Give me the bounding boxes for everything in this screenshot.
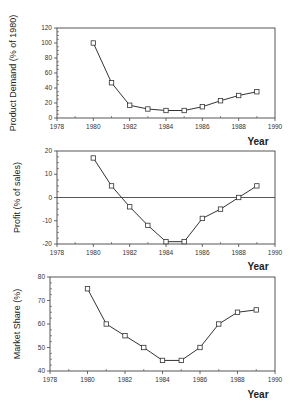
data-point-marker [218, 99, 222, 103]
y-tick-label: 10 [45, 170, 53, 177]
data-point-marker [85, 287, 89, 291]
data-line [93, 43, 257, 111]
y-tick-label: 0 [48, 114, 52, 121]
data-point-marker [104, 322, 108, 326]
y-tick-label: 0 [48, 194, 52, 201]
data-point-marker [160, 358, 164, 362]
data-point-marker [142, 345, 146, 349]
data-point-marker [164, 239, 168, 243]
x-tick-label: 1982 [122, 249, 137, 256]
y-tick-label: 100 [41, 39, 52, 46]
x-tick-label: 1978 [50, 123, 65, 130]
x-tick-label: 1988 [231, 249, 246, 256]
x-axis-title: Year [247, 136, 268, 147]
x-tick-label: 1978 [43, 376, 58, 383]
data-point-marker [200, 105, 204, 109]
data-point-marker [182, 239, 186, 243]
data-point-marker [255, 90, 259, 94]
y-tick-label: 80 [45, 54, 53, 61]
data-point-marker [198, 345, 202, 349]
x-tick-label: 1982 [122, 123, 137, 130]
data-point-marker [123, 334, 127, 338]
y-tick-label: 60 [38, 320, 46, 327]
y-tick-label: 40 [38, 367, 46, 374]
data-point-marker [146, 107, 150, 111]
x-tick-label: 1984 [159, 249, 174, 256]
y-axis-title: Profit (% of sales) [12, 162, 22, 233]
x-tick-label: 1990 [268, 123, 283, 130]
data-point-marker [218, 207, 222, 211]
data-point-marker [127, 205, 131, 209]
data-point-marker [235, 310, 239, 314]
data-point-marker [109, 184, 113, 188]
y-tick-label: 80 [38, 273, 46, 280]
y-tick-label: -20 [43, 240, 53, 247]
profit-chart: -20-10010201978198019821984198619881990P… [12, 147, 283, 272]
data-point-marker [254, 308, 258, 312]
y-tick-label: 20 [45, 147, 53, 154]
y-tick-label: 60 [45, 69, 53, 76]
chart-figure: 0204060801001201978198019821984198619881… [0, 0, 297, 419]
plot-frame [57, 28, 275, 118]
y-tick-label: 70 [38, 297, 46, 304]
market-share-chart: 40506070801978198019821984198619881990Ma… [12, 273, 283, 400]
data-point-marker [200, 216, 204, 220]
product-demand-chart: 0204060801001201978198019821984198619881… [8, 15, 283, 147]
x-tick-label: 1988 [231, 123, 246, 130]
data-point-marker [164, 108, 168, 112]
x-tick-label: 1986 [193, 376, 208, 383]
x-tick-label: 1984 [155, 376, 170, 383]
x-axis-title: Year [247, 389, 268, 400]
data-line [88, 289, 257, 361]
plot-frame [50, 277, 275, 371]
x-tick-label: 1988 [230, 376, 245, 383]
data-point-marker [91, 41, 95, 45]
data-point-marker [217, 322, 221, 326]
x-tick-label: 1980 [86, 249, 101, 256]
data-point-marker [127, 103, 131, 107]
data-point-marker [236, 195, 240, 199]
x-tick-label: 1984 [159, 123, 174, 130]
y-tick-label: 20 [45, 99, 53, 106]
x-axis-title: Year [247, 261, 268, 272]
data-point-marker [109, 81, 113, 85]
x-tick-label: 1986 [195, 249, 210, 256]
data-point-marker [182, 108, 186, 112]
x-tick-label: 1982 [118, 376, 133, 383]
y-tick-label: 120 [41, 24, 52, 31]
data-point-marker [236, 93, 240, 97]
x-tick-label: 1990 [268, 249, 283, 256]
data-line [93, 158, 257, 242]
x-tick-label: 1978 [50, 249, 65, 256]
charts-svg: 0204060801001201978198019821984198619881… [0, 0, 297, 419]
data-point-marker [146, 223, 150, 227]
x-tick-label: 1990 [268, 376, 283, 383]
y-axis-title: Market Share (%) [12, 289, 22, 360]
y-tick-label: 40 [45, 84, 53, 91]
data-point-marker [91, 156, 95, 160]
x-tick-label: 1980 [86, 123, 101, 130]
data-point-marker [179, 358, 183, 362]
x-tick-label: 1986 [195, 123, 210, 130]
y-tick-label: -10 [43, 217, 53, 224]
y-tick-label: 50 [38, 344, 46, 351]
data-point-marker [255, 184, 259, 188]
y-axis-title: Product Demand (% of 1980) [8, 15, 18, 132]
x-tick-label: 1980 [80, 376, 95, 383]
